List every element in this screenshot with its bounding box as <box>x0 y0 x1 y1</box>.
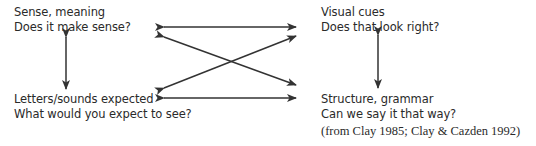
node-title: Visual cues <box>321 5 439 20</box>
node-question: What would you expect to see? <box>14 107 192 122</box>
node-question: Can we say it that way? <box>321 107 456 122</box>
node-question: Does it make sense? <box>14 20 131 35</box>
citation: (from Clay 1985; Clay & Cazden 1992) <box>321 124 520 139</box>
node-sense-meaning: Sense, meaning Does it make sense? <box>14 5 131 34</box>
node-title: Letters/sounds expected <box>14 92 192 107</box>
node-letters-sounds: Letters/sounds expected What would you e… <box>14 92 192 121</box>
node-title: Sense, meaning <box>14 5 131 20</box>
node-question: Does that look right? <box>321 20 439 35</box>
node-structure-grammar: Structure, grammar Can we say it that wa… <box>321 92 456 121</box>
node-visual-cues: Visual cues Does that look right? <box>321 5 439 34</box>
node-title: Structure, grammar <box>321 92 456 107</box>
